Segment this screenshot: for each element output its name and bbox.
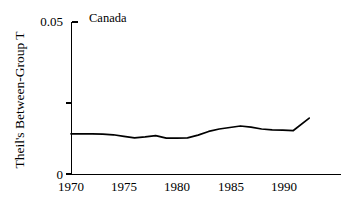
y-axis-title: Theil's Between-Group T (12, 31, 27, 169)
series-line-theils-t (71, 118, 309, 138)
x-tick-label-1980: 1980 (164, 179, 190, 194)
y-tick-label-top: 0.05 (40, 14, 63, 29)
x-tick-label-1975: 1975 (111, 179, 137, 194)
chart-figure: 0.05 0 Theil's Between-Group T Canada 19… (0, 0, 356, 212)
panel-title: Canada (89, 11, 127, 25)
x-tick-label-1970: 1970 (58, 179, 84, 194)
chart-canvas: 0.05 0 Theil's Between-Group T Canada 19… (0, 0, 356, 212)
x-tick-label-1990: 1990 (271, 179, 297, 194)
x-tick-label-1985: 1985 (218, 179, 244, 194)
